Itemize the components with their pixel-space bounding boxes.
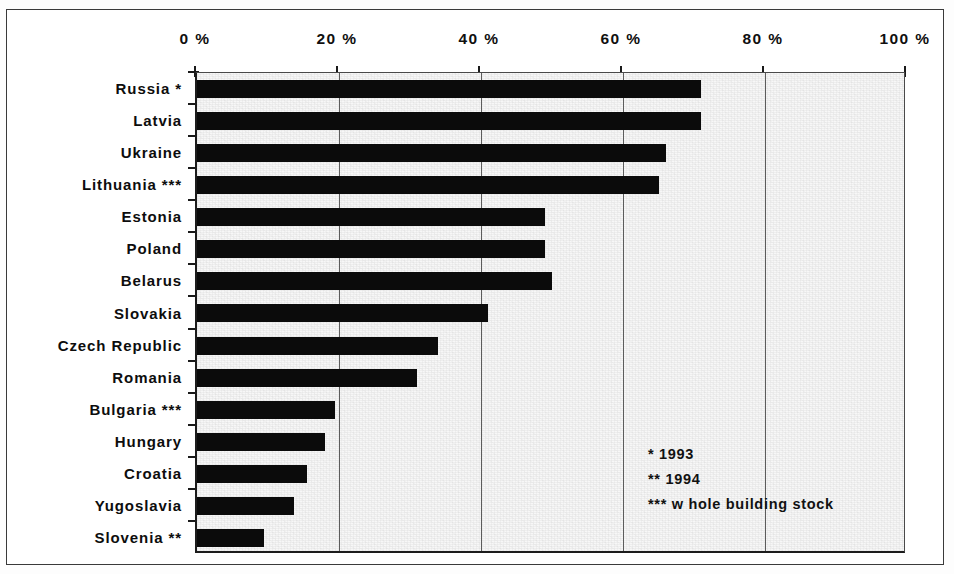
bar-13 bbox=[197, 497, 294, 515]
footnote-2: *** w hole building stock bbox=[648, 492, 908, 517]
y-category-label-5: Poland bbox=[127, 240, 182, 257]
footnote-block: * 1993** 1994*** w hole building stock bbox=[648, 442, 908, 517]
bar-10 bbox=[197, 401, 335, 419]
bar-12 bbox=[197, 465, 307, 483]
y-category-label-6: Belarus bbox=[121, 272, 182, 289]
y-category-label-0: Russia * bbox=[116, 80, 182, 97]
y-category-label-7: Slovakia bbox=[114, 304, 182, 321]
bar-6 bbox=[197, 272, 552, 290]
y-category-label-11: Hungary bbox=[115, 432, 182, 449]
bar-7 bbox=[197, 304, 488, 322]
y-category-label-1: Latvia bbox=[133, 112, 182, 129]
bar-9 bbox=[197, 369, 417, 387]
x-axis-tick-labels: 0 %20 %40 %60 %80 %100 % bbox=[0, 0, 954, 72]
y-category-label-8: Czech Republic bbox=[58, 336, 182, 353]
x-tick-label-40: 40 % bbox=[459, 30, 500, 48]
x-tick-label-100: 100 % bbox=[880, 30, 931, 48]
bar-5 bbox=[197, 240, 545, 258]
y-category-label-3: Lithuania *** bbox=[82, 176, 182, 193]
y-category-label-13: Yugoslavia bbox=[95, 496, 182, 513]
x-tick-label-60: 60 % bbox=[601, 30, 642, 48]
footnote-0: * 1993 bbox=[648, 442, 908, 467]
bar-2 bbox=[197, 144, 666, 162]
bar-0 bbox=[197, 80, 701, 98]
bar-8 bbox=[197, 337, 438, 355]
x-tick-label-0: 0 % bbox=[180, 30, 211, 48]
figure-container: 0 %20 %40 %60 %80 %100 % Russia *LatviaU… bbox=[0, 0, 954, 574]
y-category-label-9: Romania bbox=[112, 368, 182, 385]
bar-11 bbox=[197, 433, 325, 451]
bar-1 bbox=[197, 112, 701, 130]
bar-4 bbox=[197, 208, 545, 226]
x-tick-label-80: 80 % bbox=[743, 30, 784, 48]
footnote-1: ** 1994 bbox=[648, 467, 908, 492]
bar-14 bbox=[197, 529, 264, 547]
y-category-label-2: Ukraine bbox=[121, 144, 182, 161]
y-category-label-14: Slovenia ** bbox=[95, 528, 182, 545]
y-category-label-12: Croatia bbox=[124, 464, 182, 481]
x-tick-label-20: 20 % bbox=[317, 30, 358, 48]
bar-3 bbox=[197, 176, 659, 194]
y-category-label-10: Bulgaria *** bbox=[90, 400, 183, 417]
y-category-label-4: Estonia bbox=[122, 208, 182, 225]
